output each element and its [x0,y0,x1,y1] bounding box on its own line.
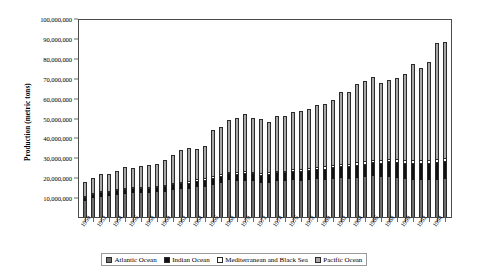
y-axis-tick-label: 60,000,000 [43,95,72,102]
bar-segment [316,106,318,167]
x-axis-label-slot [377,222,385,252]
bar-column [193,20,201,217]
bar-segment [156,165,158,185]
legend-item[interactable]: Atlantic Ocean [106,256,157,264]
stacked-bar [139,166,143,217]
legend-item-label: Indian Ocean [172,256,210,264]
bar-segment [324,105,326,167]
x-axis-label-slot: 1958 [145,222,153,252]
bar-segment [228,121,230,172]
legend-item[interactable]: Pacific Ocean [315,256,363,264]
x-axis-label-slot: 1962 [177,222,185,252]
bar-segment [92,179,94,193]
x-axis-label-slot [89,222,97,252]
legend-item[interactable]: Mediterranean and Black Sea [217,256,308,264]
bar-column [433,20,441,217]
bar-segment [420,69,422,160]
bar-column [249,20,257,217]
bar-column [241,20,249,217]
bar-segment [436,180,438,217]
bar-column [185,20,193,217]
x-axis-label-slot [425,222,433,252]
bar-segment [196,187,198,217]
stacked-bar [339,92,343,217]
stacked-bar [299,111,303,217]
stacked-bar [275,116,279,217]
bar-segment [124,168,126,188]
y-axis-tick-labels: 100,000,00090,000,00080,000,00070,000,00… [0,0,78,279]
legend-swatch-pacific [315,257,321,263]
bar-segment [204,147,206,179]
legend-item-label: Mediterranean and Black Sea [225,256,308,264]
bar-column [321,20,329,217]
bar-segment [388,81,390,158]
bar-segment [108,175,110,191]
legend-swatch-mediterranean [217,257,223,263]
bar-segment [220,183,222,217]
bar-segment [204,187,206,217]
x-axis-label-slot: 1988 [385,222,393,252]
bar-segment [212,185,214,217]
stacked-bar [147,165,151,217]
stacked-bar [131,168,135,217]
stacked-bar [419,68,423,217]
bar-segment [404,164,406,179]
stacked-bar [387,80,391,217]
x-axis-label-slot: 1990 [401,222,409,252]
legend-item[interactable]: Indian Ocean [164,256,210,264]
bar-column [425,20,433,217]
bar-column [257,20,265,217]
bar-segment [252,181,254,217]
bar-segment [380,177,382,217]
bar-segment [300,181,302,217]
bar-series-container [79,20,451,217]
stacked-bar [211,130,215,217]
bar-segment [324,170,326,180]
bar-segment [372,163,374,176]
bar-column [329,20,337,217]
bar-segment [380,164,382,178]
x-axis-label-slot [361,222,369,252]
bar-segment [276,117,278,171]
bar-segment [284,173,286,181]
y-axis-tick-label: 30,000,000 [43,155,72,162]
bar-column [153,20,161,217]
stacked-bar [259,119,263,217]
bar-segment [172,156,174,184]
bar-column [137,20,145,217]
bar-segment [348,179,350,217]
bar-segment [308,110,310,168]
stacked-bar [403,74,407,217]
y-axis-tick-label: 10,000,000 [43,195,72,202]
bar-column [121,20,129,217]
bar-column [217,20,225,217]
bar-column [305,20,313,217]
legend-item-label: Atlantic Ocean [115,256,157,264]
x-axis-label-slot: 1986 [369,222,377,252]
bar-segment [356,166,358,178]
bar-segment [428,180,430,217]
bar-segment [140,167,142,187]
bar-segment [260,120,262,173]
x-axis-label-slot [329,222,337,252]
x-axis-label-slot [217,222,225,252]
x-axis-label-slot [233,222,241,252]
stacked-bar [123,167,127,217]
bar-column [169,20,177,217]
x-axis-tick-labels: 1950195219541956195819601962196419661968… [79,222,451,252]
stacked-bar [179,150,183,217]
stacked-bar [291,112,295,217]
bar-column [177,20,185,217]
bar-segment [404,75,406,160]
x-axis-label-slot: 1974 [273,222,281,252]
bar-column [353,20,361,217]
bar-column [377,20,385,217]
x-axis-label-slot: 1964 [193,222,201,252]
x-axis-label-slot: 1952 [97,222,105,252]
bar-segment [396,79,398,159]
x-axis-label-slot [153,222,161,252]
bar-column [105,20,113,217]
bar-segment [340,93,342,164]
bar-segment [244,115,246,171]
bar-segment [196,150,198,180]
